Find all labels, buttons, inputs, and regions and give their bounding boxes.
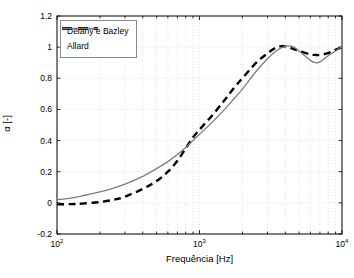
svg-text:0.2: 0.2 (40, 167, 52, 177)
x-tick-labels: 102103104 (51, 238, 349, 249)
plot-svg: 1.210.80.60.40.20-0.2102103104 (0, 0, 354, 278)
svg-text:103: 103 (193, 238, 206, 249)
y-tick-labels: 1.210.80.60.40.20-0.2 (37, 11, 52, 239)
y-axis-label: α [-] (1, 64, 12, 184)
svg-text:1.2: 1.2 (40, 11, 52, 21)
solid-line-sample-icon (61, 21, 99, 36)
legend: Delany e Bazley Allard (60, 20, 137, 58)
svg-text:0.4: 0.4 (40, 136, 52, 146)
svg-text:104: 104 (336, 238, 349, 249)
figure: 1.210.80.60.40.20-0.2102103104 Delany e … (0, 0, 354, 278)
svg-text:0: 0 (47, 198, 52, 208)
svg-text:-0.2: -0.2 (37, 229, 52, 239)
legend-entry-allard: Allard (67, 39, 128, 54)
svg-text:0.8: 0.8 (40, 73, 52, 83)
legend-label-allard: Allard (67, 39, 89, 54)
svg-text:102: 102 (51, 238, 64, 249)
svg-text:0.6: 0.6 (40, 104, 52, 114)
x-axis-label: Frequência [Hz] (57, 253, 342, 264)
svg-text:1: 1 (47, 42, 52, 52)
